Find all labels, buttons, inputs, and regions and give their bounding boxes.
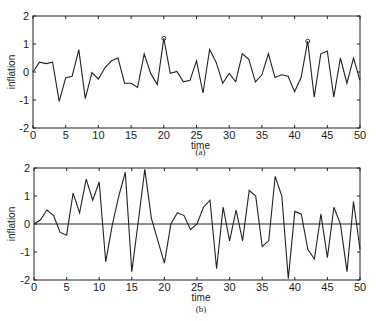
x-tick-label: 15 (126, 281, 138, 293)
x-tick-label: 50 (354, 281, 366, 293)
inflation-series-line (33, 38, 360, 101)
x-tick-label: 35 (256, 281, 268, 293)
y-tick-label: -2 (20, 274, 30, 286)
x-tick-label: 40 (289, 281, 301, 293)
y-axis-label: inflation (6, 55, 17, 89)
y-tick-label: 2 (24, 162, 30, 174)
chart-panel-b: 05101520253035404550-2-1012timeinflation… (6, 162, 366, 314)
x-tick-label: 10 (93, 281, 105, 293)
chart-panel-a: 05101520253035404550-2-1012timeinflation… (6, 10, 366, 157)
figure-caption: (b) (196, 304, 207, 314)
y-tick-label: -1 (20, 246, 30, 258)
x-tick-label: 15 (125, 129, 137, 141)
x-axis-label: time (192, 292, 211, 303)
y-axis-label: inflation (6, 207, 17, 241)
y-tick-label: -2 (19, 122, 29, 134)
y-tick-label: 0 (23, 66, 29, 78)
x-tick-label: 30 (223, 281, 235, 293)
x-tick-label: 5 (64, 281, 70, 293)
chart-figure: 05101520253035404550-2-1012timeinflation… (0, 0, 376, 321)
x-tick-label: 5 (63, 129, 69, 141)
x-tick-label: 20 (158, 129, 170, 141)
x-tick-label: 45 (321, 129, 333, 141)
x-tick-label: 0 (31, 281, 37, 293)
x-tick-label: 30 (223, 129, 235, 141)
y-tick-label: -1 (19, 94, 29, 106)
x-tick-label: 20 (158, 281, 170, 293)
y-tick-label: 2 (23, 10, 29, 22)
x-tick-label: 50 (354, 129, 366, 141)
y-tick-label: 0 (24, 218, 30, 230)
y-tick-label: 1 (24, 190, 30, 202)
x-tick-label: 0 (30, 129, 36, 141)
x-tick-label: 40 (288, 129, 300, 141)
figure-caption: (a) (196, 147, 206, 157)
x-tick-label: 35 (256, 129, 268, 141)
y-tick-label: 1 (23, 38, 29, 50)
x-tick-label: 45 (321, 281, 333, 293)
x-tick-label: 10 (92, 129, 104, 141)
